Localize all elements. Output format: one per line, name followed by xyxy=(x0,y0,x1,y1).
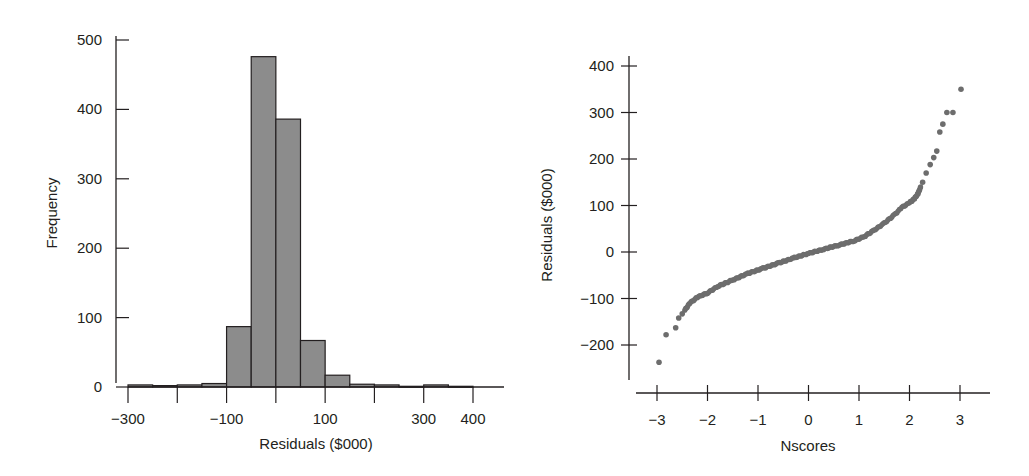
data-point xyxy=(679,311,685,317)
qq-x-axis-title: Nscores xyxy=(780,437,835,454)
data-point xyxy=(931,155,937,161)
y-tick-label: −100 xyxy=(580,290,614,307)
data-point xyxy=(958,86,964,92)
data-point xyxy=(673,325,679,331)
data-point xyxy=(656,359,662,365)
qq-y-axis-title: Residuals ($000) xyxy=(538,168,555,281)
qq-points xyxy=(656,86,964,365)
x-tick-label: −1 xyxy=(749,411,766,428)
data-point xyxy=(923,170,929,176)
data-point xyxy=(940,121,946,127)
y-tick-label: 200 xyxy=(589,150,614,167)
data-point xyxy=(918,184,923,189)
data-point xyxy=(663,332,669,338)
x-tick-label: 2 xyxy=(905,411,913,428)
x-tick-label: −2 xyxy=(699,411,716,428)
data-point xyxy=(934,148,940,154)
data-point xyxy=(927,162,933,168)
y-tick-label: −200 xyxy=(580,336,614,353)
data-point xyxy=(920,179,926,185)
x-tick-label: −3 xyxy=(648,411,665,428)
data-point xyxy=(944,110,950,116)
y-tick-label: 300 xyxy=(589,104,614,121)
normal-probability-plot: −200−1000100200300400−3−2−10123NscoresRe… xyxy=(0,0,1029,476)
x-tick-label: 1 xyxy=(855,411,863,428)
y-tick-label: 0 xyxy=(606,243,614,260)
x-tick-label: 0 xyxy=(804,411,812,428)
data-point xyxy=(937,129,943,135)
y-tick-label: 100 xyxy=(589,197,614,214)
y-tick-label: 400 xyxy=(589,57,614,74)
data-point xyxy=(950,110,956,116)
x-tick-label: 3 xyxy=(956,411,964,428)
